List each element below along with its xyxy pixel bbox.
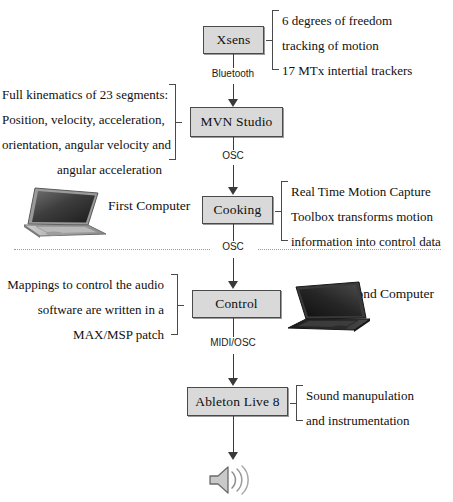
annotation-line: 6 degrees of freedom	[282, 8, 412, 33]
arrowhead-speaker	[228, 452, 238, 460]
bracket-stem	[177, 274, 178, 335]
bracket-cap-top	[281, 181, 288, 182]
bracket-cap-bottom	[169, 159, 176, 160]
node-mvn-studio-label: MVN Studio	[200, 114, 272, 130]
bracket-tick	[177, 305, 184, 306]
annotation-xsens: 6 degrees of freedom tracking of motion …	[282, 8, 412, 83]
annotation-cooking: Real Time Motion Capture Toolbox transfo…	[291, 179, 441, 254]
node-ableton-live[interactable]: Ableton Live 8	[187, 387, 288, 416]
node-control-label: Control	[215, 296, 258, 312]
annotation-line: software are written in a	[4, 297, 164, 322]
annotation-line: MAX/MSP patch	[4, 322, 164, 347]
diagram-canvas: Xsens MVN Studio Cooking Control Ableton…	[0, 0, 453, 502]
section-divider-left	[14, 249, 210, 250]
node-xsens[interactable]: Xsens	[203, 26, 264, 54]
bracket-cap-top	[171, 274, 178, 275]
bracket-cap-bottom	[171, 334, 178, 335]
node-cooking[interactable]: Cooking	[202, 196, 273, 224]
annotation-line: 17 MTx intertial trackers	[282, 58, 412, 83]
arrowhead-control	[228, 281, 238, 289]
node-control[interactable]: Control	[192, 290, 281, 318]
bracket-cap-bottom	[281, 240, 288, 241]
bracket-stem	[272, 10, 273, 70]
connector-mvn-cooking-lower	[233, 165, 234, 188]
bracket-stem	[175, 84, 176, 160]
arrowhead-cooking	[228, 187, 238, 195]
node-ableton-live-label: Ableton Live 8	[195, 394, 280, 410]
bracket-tick	[175, 122, 182, 123]
annotation-line: Toolbox transforms motion	[291, 204, 441, 229]
bracket-cap-top	[272, 10, 279, 11]
connector-xsens-mvn-lower	[233, 84, 234, 100]
arrowhead-mvn	[228, 99, 238, 107]
connector-control-ableton-lower	[233, 354, 234, 378]
annotation-ableton-live: Sound manupulation and instrumentation	[306, 383, 414, 433]
laptop-icon	[18, 184, 110, 240]
bracket-xsens	[266, 10, 280, 70]
edge-label-bluetooth: Bluetooth	[209, 68, 257, 79]
annotation-line: Position, velocity, acceleration,	[2, 107, 162, 132]
node-mvn-studio[interactable]: MVN Studio	[190, 107, 283, 137]
bracket-cap-bottom	[272, 69, 279, 70]
connector-cooking-control-lower	[233, 258, 234, 282]
connector-control-ableton-upper	[233, 318, 234, 339]
annotation-line: Full kinematics of 23 segments:	[2, 82, 162, 107]
connector-ableton-speaker	[233, 416, 234, 453]
annotation-line: Real Time Motion Capture	[291, 179, 441, 204]
bracket-cap-bottom	[296, 420, 303, 421]
caption-first-computer: First Computer	[108, 198, 190, 214]
bracket-cap-top	[296, 385, 303, 386]
connector-cooking-control-upper	[233, 224, 234, 242]
bracket-cooking	[275, 181, 289, 241]
edge-label-midi-osc: MIDI/OSC	[207, 337, 259, 348]
laptop-icon	[284, 278, 376, 334]
bracket-ableton-live	[290, 385, 304, 421]
node-xsens-label: Xsens	[217, 32, 251, 48]
annotation-line: angular acceleration	[2, 157, 162, 182]
node-cooking-label: Cooking	[214, 202, 262, 218]
annotation-line: Mappings to control the audio	[4, 272, 164, 297]
speaker-icon	[206, 462, 254, 498]
edge-label-osc-2: OSC	[219, 241, 247, 252]
annotation-line: orientation, angular velocity and	[2, 132, 162, 157]
annotation-mvn-studio: Full kinematics of 23 segments: Position…	[2, 82, 162, 182]
bracket-stem	[281, 181, 282, 241]
annotation-line: and instrumentation	[306, 408, 414, 433]
annotation-control: Mappings to control the audio software a…	[4, 272, 164, 347]
annotation-line: tracking of motion	[282, 33, 412, 58]
edge-label-osc-1: OSC	[219, 150, 247, 161]
bracket-stem	[296, 385, 297, 421]
annotation-line: Sound manupulation	[306, 383, 414, 408]
bracket-control	[170, 274, 184, 335]
annotation-line: information into control data	[291, 229, 441, 254]
bracket-cap-top	[169, 84, 176, 85]
arrowhead-ableton	[228, 378, 238, 386]
